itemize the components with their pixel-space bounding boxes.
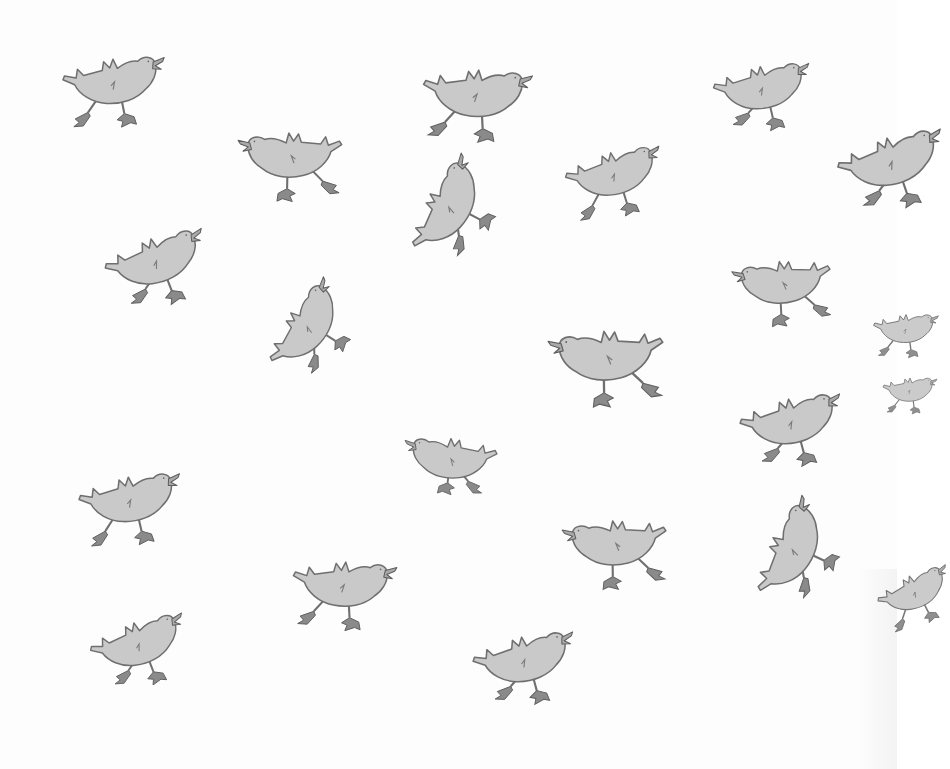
duck-20 xyxy=(866,551,950,639)
duck-icon xyxy=(730,376,855,477)
duck-6 xyxy=(825,110,950,223)
duck-1 xyxy=(55,40,175,133)
duck-icon xyxy=(730,481,863,623)
duck-5 xyxy=(555,129,675,228)
duck-icon xyxy=(724,238,844,337)
duck-17 xyxy=(78,596,202,701)
duck-icon xyxy=(78,596,202,701)
duck-icon xyxy=(825,110,950,223)
duck-18 xyxy=(463,614,588,715)
duck-icon xyxy=(870,305,942,359)
duck-icon xyxy=(385,139,520,281)
duck-icon xyxy=(539,306,677,417)
duck-icon xyxy=(245,262,376,397)
duck-icon xyxy=(70,456,192,553)
duck-21 xyxy=(870,305,942,359)
duck-icon xyxy=(92,210,223,321)
duck-7 xyxy=(92,210,223,321)
duck-12 xyxy=(400,425,502,502)
duck-19 xyxy=(730,481,863,623)
duck-8 xyxy=(385,139,520,281)
duck-icon xyxy=(866,551,950,639)
duck-icon xyxy=(463,614,588,715)
duck-icon xyxy=(555,129,675,228)
duck-2 xyxy=(231,112,353,209)
duck-11 xyxy=(245,262,376,397)
duck-icon xyxy=(400,425,502,502)
duck-icon xyxy=(880,370,940,415)
duck-15 xyxy=(554,498,679,599)
duck-9 xyxy=(724,238,844,337)
duck-22 xyxy=(880,370,940,415)
duck-16 xyxy=(284,543,404,636)
duck-13 xyxy=(730,376,855,477)
duck-icon xyxy=(284,543,404,636)
duck-icon xyxy=(231,112,353,209)
duck-3 xyxy=(414,50,540,148)
duck-icon xyxy=(554,498,679,599)
duck-4 xyxy=(705,47,821,139)
duck-icon xyxy=(55,40,175,133)
duck-10 xyxy=(539,306,677,417)
duck-icon xyxy=(414,50,540,148)
duck-icon xyxy=(705,47,821,139)
duck-14 xyxy=(70,456,192,553)
